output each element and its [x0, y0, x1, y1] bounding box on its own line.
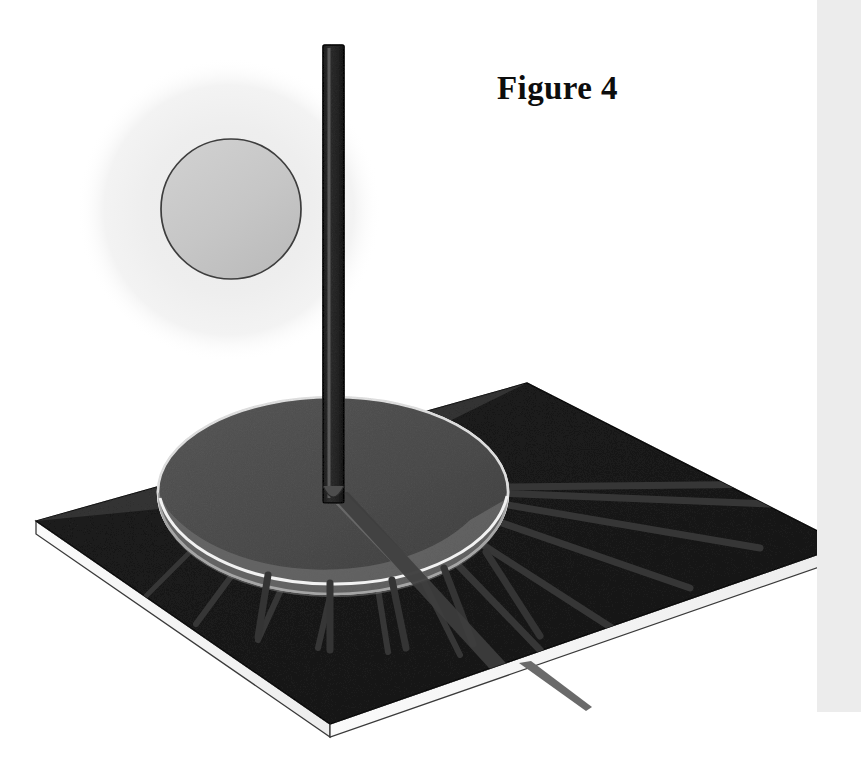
gnomon-pole: [323, 45, 344, 503]
sundial-illustration: [0, 0, 861, 776]
gnomon-group: [323, 45, 344, 503]
scan-edge-band: [817, 0, 861, 712]
hour-line-1: [500, 484, 800, 487]
gnomon-shadow-beyond-plate: [519, 661, 592, 711]
sun-disc: [161, 139, 301, 279]
figure-title: Figure 4: [497, 72, 618, 105]
figure-canvas: Figure 4: [0, 0, 861, 776]
